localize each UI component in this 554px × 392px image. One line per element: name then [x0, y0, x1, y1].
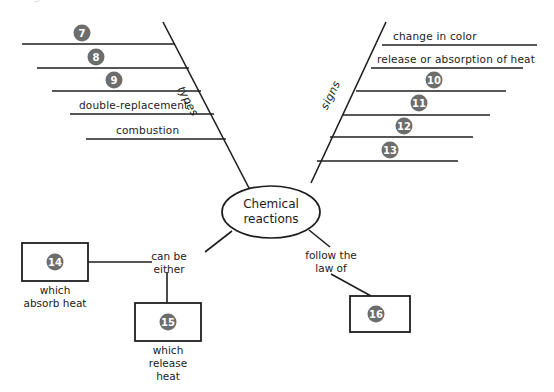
node-box-15-caption: which release heat — [123, 344, 213, 383]
bottom-left-branch-label-line-1: can be — [140, 250, 198, 263]
left-rib-label-5: combustion — [116, 124, 179, 136]
right-rib-badge-11: 11 — [411, 95, 428, 112]
caption-line: release — [123, 357, 213, 370]
bottom-left-spine — [205, 231, 232, 252]
center-oval-label: Chemical reactions — [211, 197, 331, 227]
right-rib-badge-10: 10 — [426, 72, 443, 89]
caption-line: absorb heat — [10, 297, 100, 310]
caption-line: heat — [123, 370, 213, 383]
connector-to-box-16 — [331, 274, 371, 296]
right-rib-label-2: release or absorption of heat — [377, 53, 535, 65]
badge-label: 15 — [161, 317, 175, 328]
bottom-right-branch-label: follow the law of — [299, 249, 363, 274]
caption-line: which — [123, 344, 213, 357]
left-rib-badge-9: 9 — [106, 72, 123, 89]
caption-line: which — [10, 284, 100, 297]
badge-label: 7 — [79, 28, 86, 39]
badge-label: 8 — [93, 52, 100, 63]
bottom-left-branch-label-line-2: either — [140, 263, 198, 276]
left-rib-badge-8: 8 — [88, 49, 105, 66]
badge-label: 10 — [427, 75, 441, 86]
right-rib-label-1: change in color — [393, 30, 477, 42]
badge-label: 16 — [369, 309, 383, 320]
badge-label: 14 — [48, 257, 62, 268]
center-oval-line-2: reactions — [211, 212, 331, 227]
node-badge-15: 15 — [160, 314, 177, 331]
bottom-right-branch-label-line-1: follow the — [299, 249, 363, 262]
center-oval-line-1: Chemical — [211, 197, 331, 212]
concept-map-diagram: s 7 8 9 — [0, 0, 554, 392]
badge-label: 9 — [111, 75, 118, 86]
left-rib-label-4: double-replacement — [79, 99, 188, 111]
badge-label: 13 — [383, 145, 397, 156]
node-badge-16: 16 — [368, 306, 385, 323]
left-rib-badge-7: 7 — [74, 25, 91, 42]
bottom-right-spine — [309, 230, 330, 247]
badge-label: 11 — [412, 98, 426, 109]
right-rib-badge-12: 12 — [396, 118, 413, 135]
right-rib-badge-13: 13 — [382, 142, 399, 159]
badge-label: 12 — [397, 121, 411, 132]
bottom-left-branch-label: can be either — [140, 250, 198, 275]
node-box-14-caption: which absorb heat — [10, 284, 100, 310]
node-badge-14: 14 — [47, 254, 64, 271]
bottom-right-branch-label-line-2: law of — [299, 262, 363, 275]
